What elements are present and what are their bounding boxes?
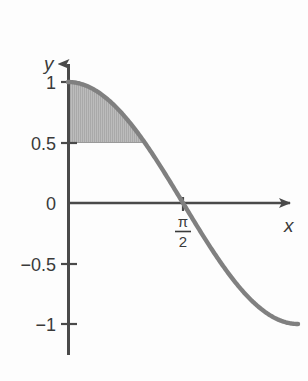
x-tick-label-pi-denominator: 2 (179, 233, 187, 250)
y-tick-label-0-5: 0.5 (31, 134, 56, 154)
y-axis-label: y (42, 53, 55, 74)
cosine-plot-figure: y x 1 0.5 0 −0.5 −1 π 2 (0, 0, 308, 381)
y-tick-label-neg-1: −1 (35, 315, 56, 335)
y-tick-label-neg-0-5: −0.5 (20, 255, 56, 275)
y-tick-label-1: 1 (46, 73, 56, 93)
x-axis-label: x (283, 215, 295, 236)
y-tick-label-0: 0 (46, 194, 56, 214)
x-tick-label-pi-numerator: π (178, 213, 188, 230)
